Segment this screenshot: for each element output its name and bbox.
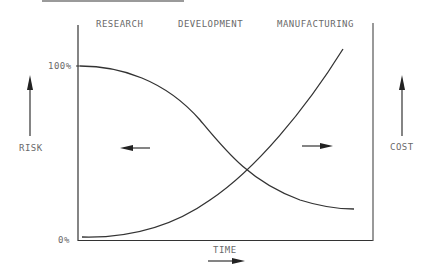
risk-cost-diagram bbox=[0, 0, 431, 274]
time-axis-label: TIME bbox=[213, 246, 237, 255]
time-arrow-icon bbox=[208, 258, 245, 264]
phase-development-label: DEVELOPMENT bbox=[178, 20, 243, 29]
right-arrow-icon bbox=[302, 143, 333, 149]
cost-curve bbox=[82, 49, 343, 237]
risk-up-arrow-icon bbox=[27, 75, 33, 136]
phase-research-label: RESEARCH bbox=[96, 20, 143, 29]
phase-manufacturing-label: MANUFACTURING bbox=[277, 20, 354, 29]
left-arrow-icon bbox=[120, 145, 150, 151]
risk-axis-label: RISK bbox=[19, 144, 43, 153]
cost-axis-label: COST bbox=[390, 143, 414, 152]
tick-100-label: 100% bbox=[48, 62, 72, 71]
cost-up-arrow-icon bbox=[399, 75, 405, 136]
tick-0-label: 0% bbox=[58, 236, 70, 245]
risk-curve bbox=[80, 66, 354, 209]
